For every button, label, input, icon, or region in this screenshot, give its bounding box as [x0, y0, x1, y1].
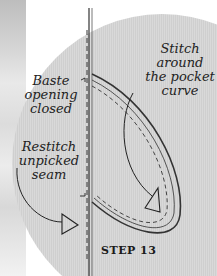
label-line: Restitch [16, 140, 82, 154]
label-line: closed [22, 102, 80, 116]
stitch-label: Stitch around the pocket curve [140, 42, 217, 98]
label-line: Baste [22, 74, 80, 88]
step-number: STEP 13 [101, 244, 156, 257]
label-line: around [140, 56, 217, 70]
label-line: the pocket [140, 70, 217, 84]
label-line: unpicked [16, 154, 82, 168]
label-line: seam [16, 168, 82, 182]
label-line: curve [140, 84, 217, 98]
sewing-diagram: Stitch around the pocket curve Baste ope… [0, 0, 217, 276]
restitch-label: Restitch unpicked seam [16, 140, 82, 182]
label-line: Stitch [140, 42, 217, 56]
baste-label: Baste opening closed [22, 74, 80, 116]
label-line: opening [22, 88, 80, 102]
restitch-arrowhead [62, 214, 78, 234]
